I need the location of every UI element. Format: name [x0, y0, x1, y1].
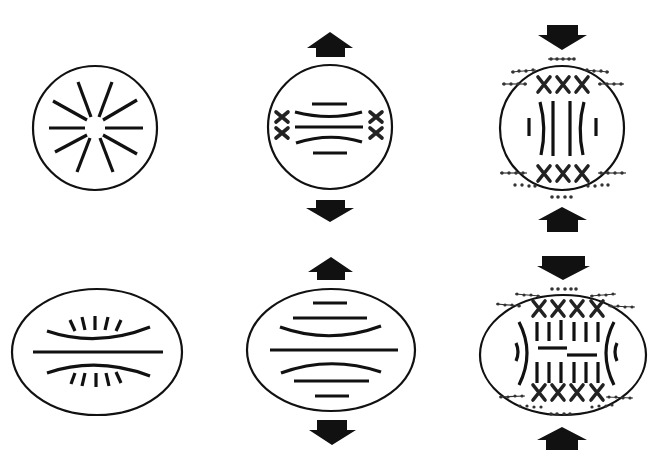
radial-aster	[49, 82, 143, 172]
chromosome-x-marks-bottom	[533, 385, 603, 400]
cell-bottom-right	[480, 256, 646, 450]
bead-filaments-bottom	[499, 394, 633, 415]
diagram-canvas: cell shape / spindle deformation schemat…	[0, 0, 663, 462]
fibers	[33, 327, 163, 376]
cell-top-left	[33, 66, 157, 190]
cell-bottom-middle	[247, 257, 415, 445]
cell-bottom-left	[12, 289, 182, 415]
arrow-down-icon	[538, 25, 587, 50]
cell-top-middle	[268, 32, 392, 222]
arrow-up-icon	[308, 257, 353, 280]
fiber-stack	[270, 303, 398, 396]
chromosome-x-marks-bottom	[538, 166, 588, 181]
vertical-fibers-lower	[537, 362, 598, 383]
chromosome-x-marks-top	[538, 77, 588, 92]
bead-filaments-top	[496, 287, 635, 308]
vertical-fibers	[529, 101, 596, 156]
cell-top-right	[500, 25, 626, 232]
arrow-up-icon	[537, 427, 587, 450]
arrow-down-icon	[537, 256, 590, 280]
arrow-up-icon	[538, 207, 587, 232]
arrow-up-icon	[307, 32, 353, 57]
vertical-fibers-upper	[537, 320, 598, 342]
chromosome-x-marks-top	[533, 301, 603, 316]
horizontal-bars	[538, 348, 597, 355]
fiber-bundle	[295, 104, 363, 153]
arrow-down-icon	[309, 420, 356, 445]
arrow-down-icon	[306, 200, 354, 222]
curved-pole-fibers	[516, 322, 617, 385]
